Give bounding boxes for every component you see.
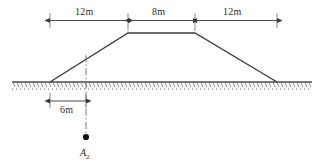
point-label-subscript: 2 (86, 153, 90, 161)
embankment-cross-section-figure: 12m 8m 12m 6m A2 (0, 0, 324, 167)
ground-hatching (12, 83, 312, 91)
embankment-outline (50, 33, 277, 82)
point-label-a2: A2 (80, 147, 90, 161)
dimension-label-right-slope: 12m (223, 6, 241, 17)
point-marker (83, 134, 89, 140)
dimension-label-left-slope: 12m (75, 6, 93, 17)
diagram-canvas (0, 0, 324, 167)
dimension-label-offset: 6m (60, 104, 73, 115)
dimension-label-crest: 8m (152, 6, 165, 17)
